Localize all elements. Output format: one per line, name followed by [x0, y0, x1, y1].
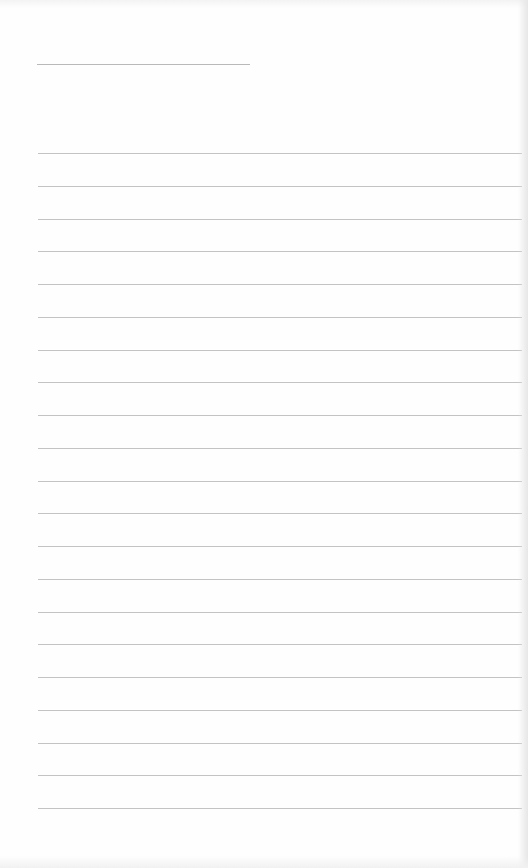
- ruled-line: [38, 251, 522, 252]
- lined-paper-page: [0, 0, 528, 868]
- ruled-line: [38, 743, 522, 744]
- ruled-line: [38, 415, 522, 416]
- ruled-line: [38, 219, 522, 220]
- ruled-line: [38, 382, 522, 383]
- ruled-line: [38, 775, 522, 776]
- title-line: [37, 64, 250, 65]
- ruled-line: [38, 710, 522, 711]
- ruled-line: [38, 481, 522, 482]
- ruled-line: [38, 579, 522, 580]
- ruled-line: [38, 677, 522, 678]
- ruled-line: [38, 513, 522, 514]
- bottom-edge-shade: [0, 856, 528, 868]
- ruled-line: [38, 644, 522, 645]
- top-edge-shade: [0, 0, 528, 8]
- ruled-line: [38, 546, 522, 547]
- page-edge-shadow: [518, 0, 528, 868]
- ruled-line: [38, 186, 522, 187]
- ruled-line: [38, 350, 522, 351]
- ruled-line: [38, 808, 522, 809]
- ruled-line: [38, 448, 522, 449]
- ruled-line: [38, 153, 522, 154]
- ruled-line: [38, 612, 522, 613]
- ruled-line: [38, 317, 522, 318]
- ruled-line: [38, 284, 522, 285]
